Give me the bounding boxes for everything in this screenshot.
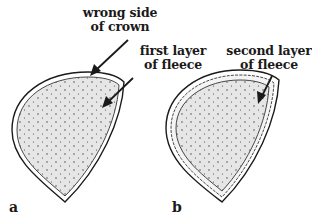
annotation-line: first layer [133, 44, 213, 58]
annotation-second-layer-of-fleece: second layer of fleece [226, 44, 312, 72]
annotation-first-layer-of-fleece: first layer of fleece [133, 44, 213, 72]
arrow-wrong-side [90, 40, 128, 76]
panel-label-b: b [172, 199, 182, 215]
annotation-line: second layer [226, 44, 312, 58]
annotation-line: wrong side [80, 6, 160, 20]
annotation-wrong-side-of-crown: wrong side of crown [80, 6, 160, 34]
annotation-line: of fleece [133, 58, 213, 72]
crown-piece-a [12, 72, 124, 202]
panel-label-a: a [9, 199, 18, 215]
annotation-line: of crown [80, 20, 160, 34]
crown-piece-b [166, 70, 279, 202]
annotation-line: of fleece [226, 58, 312, 72]
